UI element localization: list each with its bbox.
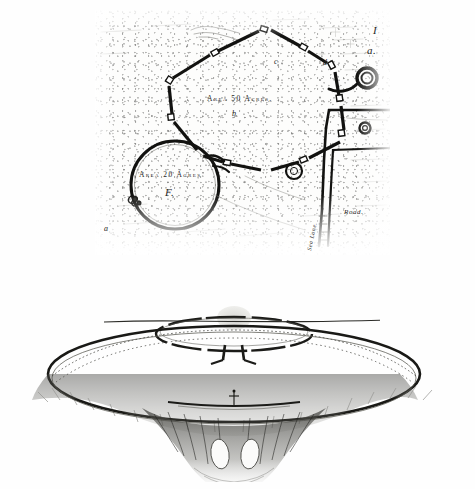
reconstruction-linework xyxy=(18,292,458,482)
label-letter-b: b xyxy=(232,109,237,118)
perspective-reconstruction xyxy=(18,292,458,482)
plan-map: Area 50 Acres. b Area 20 Acres F. a c d … xyxy=(95,10,390,255)
label-letter-c: c xyxy=(274,57,278,66)
engraved-plate: Area 50 Acres. b Area 20 Acres F. a c d … xyxy=(0,0,475,489)
label-letter-a-right: a. xyxy=(367,44,376,56)
label-area-50-acres: Area 50 Acres. xyxy=(207,94,273,103)
label-letter-d: d xyxy=(323,58,328,67)
label-area-20-acres: Area 20 Acres xyxy=(139,170,201,179)
label-letter-I: I xyxy=(373,24,377,36)
label-road: Road. xyxy=(344,208,364,216)
label-letter-a-lower: a xyxy=(104,224,109,233)
plan-linework xyxy=(95,10,390,255)
inner-avenue xyxy=(211,345,256,364)
label-letter-F: F. xyxy=(165,186,174,198)
